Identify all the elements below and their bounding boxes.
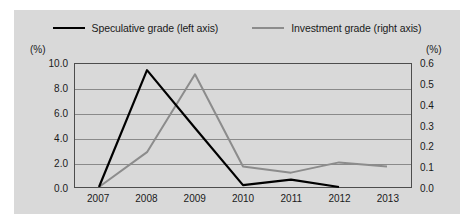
legend-line-icon-speculative [53, 27, 85, 29]
line-investment-grade [99, 74, 387, 187]
series-lines [75, 64, 411, 187]
legend-item-investment: Investment grade (right axis) [252, 22, 421, 34]
right-tick-0.6: 0.6 [420, 58, 454, 69]
x-tick-2008: 2008 [124, 193, 168, 204]
left-axis-unit-label: (%) [30, 44, 46, 55]
left-tick-10.0: 10.0 [34, 58, 68, 69]
legend-label-investment: Investment grade (right axis) [291, 22, 421, 34]
right-tick-0.5: 0.5 [420, 78, 454, 89]
x-tick-2007: 2007 [76, 193, 120, 204]
left-tick-4.0: 4.0 [34, 133, 68, 144]
x-tick-2011: 2011 [269, 193, 313, 204]
chart-figure: Speculative grade (left axis) Investment… [14, 10, 460, 214]
right-tick-0.2: 0.2 [420, 141, 454, 152]
chart-legend: Speculative grade (left axis) Investment… [14, 20, 460, 36]
left-tick-2.0: 2.0 [34, 158, 68, 169]
left-tick-0.0: 0.0 [34, 183, 68, 194]
x-tick-2009: 2009 [173, 193, 217, 204]
legend-item-speculative: Speculative grade (left axis) [53, 22, 219, 34]
plot-area [74, 63, 412, 188]
right-tick-0.3: 0.3 [420, 120, 454, 131]
x-tick-2013: 2013 [366, 193, 410, 204]
right-tick-0.1: 0.1 [420, 162, 454, 173]
legend-label-speculative: Speculative grade (left axis) [92, 22, 219, 34]
legend-line-icon-investment [252, 27, 284, 29]
left-tick-6.0: 6.0 [34, 108, 68, 119]
right-tick-0.4: 0.4 [420, 99, 454, 110]
right-tick-0.0: 0.0 [420, 183, 454, 194]
x-tick-2010: 2010 [221, 193, 265, 204]
right-axis-unit-label: (%) [426, 44, 442, 55]
left-tick-8.0: 8.0 [34, 83, 68, 94]
x-tick-2012: 2012 [318, 193, 362, 204]
